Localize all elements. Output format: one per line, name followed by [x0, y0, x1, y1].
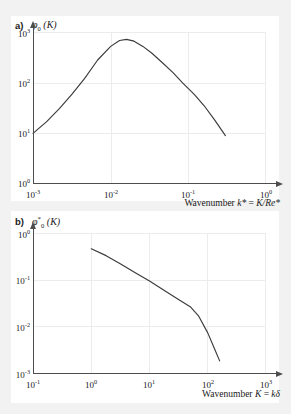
- panel-b-ytick-1: 10-1: [5, 274, 30, 286]
- panel-b-plot-area: [33, 233, 266, 374]
- panel-b-x-caption: Wavenumber K = kδ: [120, 389, 280, 399]
- panel-b-ylabel-arg: (K): [44, 216, 60, 227]
- panel-a-xtick-0: 10-3: [16, 188, 50, 200]
- panel-b-y-axis-arrow-icon: [30, 222, 36, 229]
- panel-a-x-axis: [33, 183, 276, 184]
- panel-b-xtick-0: 10-1: [16, 378, 50, 390]
- panel-b-y-axis: [33, 227, 34, 374]
- panel-a-y-axis-arrow-icon: [30, 21, 36, 28]
- panel-a-plot-area: [33, 32, 266, 184]
- panel-a-curve: [33, 32, 266, 184]
- panel-b-ytick-0: 100: [5, 228, 30, 240]
- panel-a-x-axis-arrow-icon: [276, 181, 283, 187]
- panel-a-ytick-2: 101: [5, 127, 30, 139]
- figure-container: a) φ0 (K) 103 102 101 100 10-3 10-2 10-1…: [0, 0, 291, 414]
- panel-a-ytick-1: 102: [5, 77, 30, 89]
- panel-b-tag: b): [15, 216, 24, 227]
- panel-b-ylabel: φ*0 (K): [32, 215, 60, 229]
- panel-a-y-axis: [33, 26, 34, 184]
- panel-a-ylabel-arg: (K): [41, 19, 57, 30]
- panel-a-ytick-0: 103: [5, 27, 30, 39]
- panel-b-ytick-2: 10-2: [5, 321, 30, 333]
- panel-b-xtick-1: 100: [74, 378, 108, 390]
- panel-b-x-axis-arrow-icon: [276, 371, 283, 377]
- panel-b-x-axis: [33, 373, 276, 374]
- panel-a-x-caption: Wavenumber k* = K/Re*: [120, 198, 280, 208]
- panel-b-curve: [33, 233, 266, 374]
